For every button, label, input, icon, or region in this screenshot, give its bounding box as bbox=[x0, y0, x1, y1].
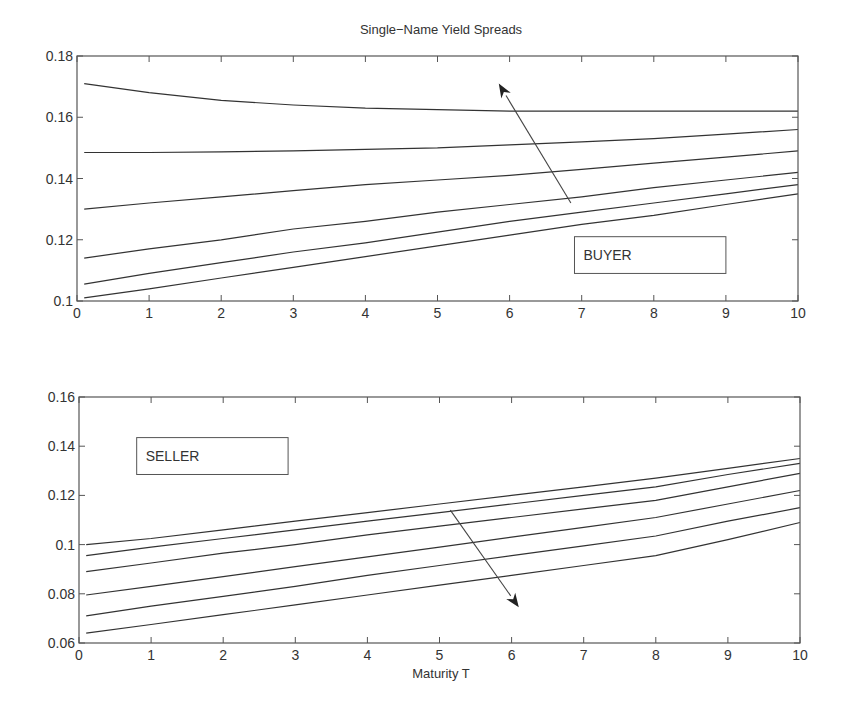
x-tick-label: 6 bbox=[506, 305, 514, 321]
x-tick-label: 0 bbox=[75, 647, 83, 663]
y-tick-label: 0.16 bbox=[48, 389, 75, 405]
x-tick-label: 7 bbox=[580, 647, 588, 663]
buyer-series-line-3 bbox=[84, 151, 798, 209]
x-tick-label: 1 bbox=[147, 647, 155, 663]
x-tick-label: 5 bbox=[436, 647, 444, 663]
figure-title: Single−Name Yield Spreads bbox=[360, 22, 523, 37]
buyer-arrow-head-icon bbox=[499, 84, 511, 99]
x-tick-label: 7 bbox=[578, 305, 586, 321]
buyer-panel: 0123456789100.10.120.140.160.18BUYER bbox=[46, 48, 806, 321]
x-tick-label: 8 bbox=[652, 647, 660, 663]
x-tick-label: 9 bbox=[724, 647, 732, 663]
y-tick-label: 0.12 bbox=[48, 487, 75, 503]
seller-series-line-2 bbox=[86, 463, 800, 555]
x-tick-label: 9 bbox=[722, 305, 730, 321]
seller-label-text: SELLER bbox=[146, 448, 200, 464]
x-tick-label: 10 bbox=[792, 647, 808, 663]
buyer-series-line-1 bbox=[84, 84, 798, 112]
x-tick-label: 3 bbox=[291, 647, 299, 663]
y-tick-label: 0.14 bbox=[46, 171, 73, 187]
x-tick-label: 3 bbox=[289, 305, 297, 321]
x-tick-label: 10 bbox=[790, 305, 806, 321]
seller-panel: 0123456789100.060.080.10.120.140.16SELLE… bbox=[48, 389, 808, 663]
buyer-series-line-2 bbox=[84, 130, 798, 153]
seller-arrow-head-icon bbox=[506, 593, 519, 608]
figure: Single−Name Yield Spreads 0123456789100.… bbox=[0, 0, 843, 712]
x-tick-label: 5 bbox=[434, 305, 442, 321]
x-tick-label: 4 bbox=[362, 305, 370, 321]
x-tick-label: 8 bbox=[650, 305, 658, 321]
y-tick-label: 0.06 bbox=[48, 635, 75, 651]
seller-series-line-6 bbox=[86, 523, 800, 634]
x-tick-label: 1 bbox=[145, 305, 153, 321]
y-tick-label: 0.08 bbox=[48, 586, 75, 602]
seller-series-line-4 bbox=[86, 491, 800, 596]
y-tick-label: 0.12 bbox=[46, 232, 73, 248]
x-tick-label: 2 bbox=[219, 647, 227, 663]
yield-spreads-figure: Single−Name Yield Spreads 0123456789100.… bbox=[0, 0, 843, 712]
x-tick-label: 0 bbox=[73, 305, 81, 321]
y-tick-label: 0.18 bbox=[46, 48, 73, 64]
x-axis-label: Maturity T bbox=[412, 666, 470, 681]
y-tick-label: 0.14 bbox=[48, 438, 75, 454]
y-tick-label: 0.1 bbox=[56, 537, 76, 553]
x-tick-label: 4 bbox=[364, 647, 372, 663]
x-tick-label: 6 bbox=[508, 647, 516, 663]
y-tick-label: 0.1 bbox=[54, 293, 74, 309]
x-tick-label: 2 bbox=[217, 305, 225, 321]
seller-series-line-3 bbox=[86, 473, 800, 571]
seller-series-line-5 bbox=[86, 508, 800, 616]
y-tick-label: 0.16 bbox=[46, 109, 73, 125]
seller-axes-frame bbox=[79, 397, 800, 643]
buyer-label-text: BUYER bbox=[583, 247, 631, 263]
